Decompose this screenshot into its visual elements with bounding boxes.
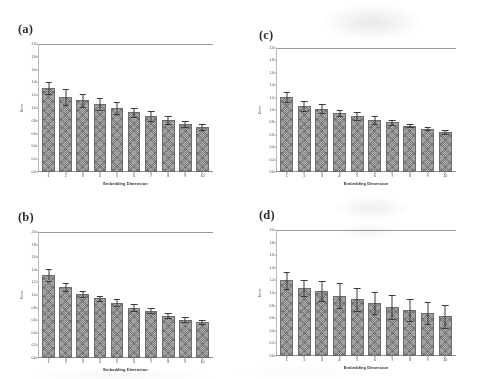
error-cap-upper <box>45 82 51 83</box>
error-bar <box>286 272 287 290</box>
error-bar <box>48 269 49 280</box>
error-cap-upper <box>336 110 343 111</box>
error-cap-upper <box>199 124 205 125</box>
bar <box>94 298 107 358</box>
error-cap-lower <box>319 301 326 302</box>
x-tick-label: 3 <box>82 174 84 178</box>
error-bar <box>65 89 66 106</box>
error-cap-lower <box>199 324 205 325</box>
error-cap-upper <box>148 111 154 112</box>
bar-group: 6 <box>125 44 142 172</box>
bar-group: 9 <box>419 230 437 356</box>
error-cap-upper <box>148 308 154 309</box>
x-axis-label: Embedding Dimension <box>276 181 456 186</box>
bar-group: 4 <box>331 230 349 356</box>
error-cap-lower <box>97 301 103 302</box>
error-cap-lower <box>45 281 51 282</box>
error-cap-upper <box>62 89 68 90</box>
error-cap-lower <box>389 319 396 320</box>
error-bar <box>409 299 410 322</box>
x-tick-label: 9 <box>184 174 186 178</box>
bar-group: 8 <box>401 48 419 172</box>
error-cap-upper <box>131 304 137 305</box>
error-cap-lower <box>283 102 290 103</box>
error-cap-lower <box>442 134 449 135</box>
error-cap-lower <box>148 313 154 314</box>
bar-group: 2 <box>296 48 314 172</box>
x-axis-label: Embedding Dimension <box>38 181 213 186</box>
bar-group: 5 <box>348 48 366 172</box>
error-cap-lower <box>319 113 326 114</box>
error-cap-upper <box>97 98 103 99</box>
x-tick-label: 2 <box>65 174 67 178</box>
x-tick-label: 4 <box>339 358 341 362</box>
y-axis-label: Error <box>258 106 262 115</box>
error-bar <box>168 116 169 124</box>
error-cap-upper <box>62 283 68 284</box>
bar <box>179 320 192 358</box>
x-tick-label: 8 <box>409 358 411 362</box>
error-cap-lower <box>424 324 431 325</box>
bar-series: 12345678910 <box>276 230 456 356</box>
error-bar <box>134 304 135 312</box>
error-cap-lower <box>45 94 51 95</box>
x-tick-label: 10 <box>443 174 447 178</box>
bar <box>128 112 141 172</box>
error-cap-upper <box>319 281 326 282</box>
bar-series: 12345678910 <box>38 232 213 358</box>
bar <box>298 288 311 356</box>
error-bar <box>445 305 446 328</box>
error-cap-lower <box>131 311 137 312</box>
bar-group: 10 <box>436 230 454 356</box>
bar <box>280 97 293 172</box>
bar-group: 8 <box>160 44 177 172</box>
error-bar <box>151 111 152 121</box>
error-cap-lower <box>407 127 414 128</box>
bar-group: 10 <box>194 44 211 172</box>
x-tick-label: 5 <box>116 360 118 364</box>
error-cap-lower <box>165 124 171 125</box>
error-cap-lower <box>336 116 343 117</box>
error-bar <box>48 82 49 94</box>
error-cap-lower <box>301 111 308 112</box>
bar <box>439 132 452 172</box>
bar <box>196 127 209 172</box>
error-cap-upper <box>354 112 361 113</box>
bar <box>111 108 124 172</box>
bar-group: 6 <box>125 232 142 358</box>
x-tick-label: 8 <box>167 360 169 364</box>
x-tick-label: 10 <box>443 358 447 362</box>
plot-area-a: Error 2.01.81.61.41.21.00.80.60.40.20.0 … <box>38 44 213 172</box>
error-cap-upper <box>424 127 431 128</box>
bar-group: 8 <box>160 232 177 358</box>
bar-group: 1 <box>278 48 296 172</box>
error-cap-lower <box>354 311 361 312</box>
error-bar <box>116 102 117 114</box>
bar-group: 5 <box>108 44 125 172</box>
panel-label-c: (c) <box>259 28 273 43</box>
error-cap-upper <box>97 296 103 297</box>
error-cap-upper <box>301 280 308 281</box>
plot-area-c: Error 2.01.81.61.41.21.00.80.60.40.20.0 … <box>276 48 456 172</box>
error-bar <box>339 283 340 308</box>
error-cap-upper <box>442 130 449 131</box>
error-cap-upper <box>389 120 396 121</box>
x-tick-label: 3 <box>82 360 84 364</box>
error-cap-upper <box>79 291 85 292</box>
bar-group: 1 <box>40 232 57 358</box>
panel-label-d: (d) <box>259 208 275 223</box>
error-cap-upper <box>283 272 290 273</box>
panel-d: (d) Error 2.01.81.61.41.21.00.80.60.40.2… <box>243 190 485 379</box>
bar-group: 9 <box>419 48 437 172</box>
bar-group: 4 <box>91 44 108 172</box>
x-tick-label: 2 <box>303 174 305 178</box>
error-cap-upper <box>442 305 449 306</box>
bar-group: 4 <box>331 48 349 172</box>
bar <box>333 113 346 172</box>
x-tick-label: 8 <box>409 174 411 178</box>
error-bar <box>357 288 358 311</box>
error-cap-upper <box>182 317 188 318</box>
bar-group: 9 <box>177 44 194 172</box>
error-cap-upper <box>389 295 396 296</box>
bar-group: 3 <box>74 44 91 172</box>
